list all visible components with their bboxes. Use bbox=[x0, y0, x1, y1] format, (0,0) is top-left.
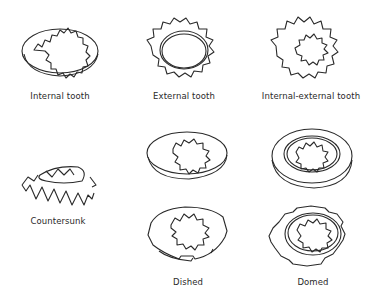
external-tooth-washer-drawing bbox=[143, 16, 225, 88]
countersunk-washer-drawing bbox=[16, 155, 102, 211]
dished-washer-bottom-drawing bbox=[145, 203, 229, 269]
external-tooth-label: External tooth bbox=[153, 91, 215, 101]
internal-tooth-label: Internal tooth bbox=[30, 91, 89, 101]
internal-external-tooth-washer-drawing bbox=[268, 14, 354, 88]
internal-tooth-washer-drawing bbox=[18, 26, 103, 85]
dished-label: Dished bbox=[173, 277, 203, 287]
domed-label: Domed bbox=[297, 277, 328, 287]
domed-washer-bottom-drawing bbox=[271, 204, 355, 272]
domed-washer-top-drawing bbox=[270, 128, 354, 198]
internal-external-tooth-label: Internal-external tooth bbox=[262, 91, 360, 101]
washer-types-figure: Internal tooth External tooth Internal-e… bbox=[0, 0, 366, 298]
countersunk-label: Countersunk bbox=[30, 216, 85, 226]
dished-washer-top-drawing bbox=[145, 131, 229, 191]
